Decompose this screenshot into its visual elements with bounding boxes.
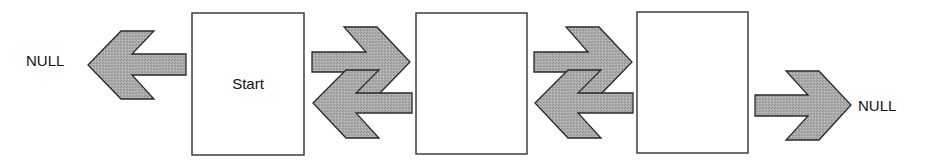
next-pointer-arrow-icon xyxy=(755,71,851,140)
prev-pointer-arrow-icon xyxy=(313,70,412,138)
node-box xyxy=(416,13,527,154)
list-node-middle xyxy=(416,13,527,154)
prev-pointer-arrow-icon xyxy=(535,70,633,138)
null-left-label: NULL xyxy=(26,52,64,69)
list-node-start: Start xyxy=(192,13,304,155)
diagram-canvas: NULL Start NULL xyxy=(0,0,935,160)
list-node-end xyxy=(637,12,748,153)
node-box xyxy=(637,12,748,153)
node-label: Start xyxy=(232,75,265,92)
linked-list-diagram: NULL Start NULL xyxy=(0,0,935,160)
null-right-label: NULL xyxy=(858,97,896,114)
prev-pointer-arrow-icon xyxy=(88,31,186,99)
